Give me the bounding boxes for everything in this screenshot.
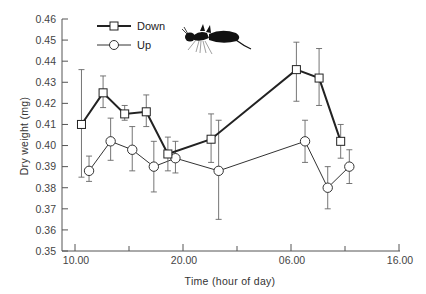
x-tick-label: 16.00 <box>387 254 413 266</box>
y-tick-label: 0.39 <box>36 160 57 172</box>
square-marker-icon <box>99 89 107 97</box>
y-tick-label: 0.46 <box>36 13 57 25</box>
x-tick-label: 10.00 <box>63 254 89 266</box>
y-tick-label: 0.44 <box>36 55 57 67</box>
y-tick-label: 0.36 <box>36 224 57 236</box>
x-axis-title: Time (hour of day) <box>185 275 276 287</box>
legend-item-up: Up <box>97 39 151 51</box>
circle-marker-icon <box>106 137 115 146</box>
chart: 0.350.360.370.380.390.400.410.420.430.44… <box>0 0 426 294</box>
square-marker-icon <box>207 135 215 143</box>
y-tick-label: 0.42 <box>36 97 57 109</box>
circle-marker-icon <box>323 183 332 192</box>
y-tick-label: 0.37 <box>36 203 57 215</box>
y-tick-label: 0.45 <box>36 34 57 46</box>
y-axis-title: Dry weight (mg) <box>18 97 30 176</box>
y-axis: 0.350.360.370.380.390.400.410.420.430.44… <box>36 13 68 257</box>
legend-item-down: Down <box>97 20 165 32</box>
y-tick-label: 0.43 <box>36 76 57 88</box>
legend-label-down: Down <box>137 20 165 32</box>
square-marker-icon <box>292 66 300 74</box>
x-axis: 10.0020.0006.0016.00 <box>62 244 413 266</box>
x-tick-label: 06.00 <box>279 254 305 266</box>
y-tick-label: 0.40 <box>36 139 57 151</box>
circle-marker-icon <box>345 162 354 171</box>
square-marker-icon <box>110 22 118 30</box>
circle-marker-icon <box>128 145 137 154</box>
y-tick-label: 0.38 <box>36 182 57 194</box>
circle-marker-icon <box>149 162 158 171</box>
y-tick-label: 0.35 <box>36 245 57 257</box>
circle-marker-icon <box>84 166 93 175</box>
ant-silhouette-icon <box>182 24 251 54</box>
x-tick-label: 20.00 <box>171 254 197 266</box>
legend: Down Up <box>97 20 165 51</box>
circle-marker-icon <box>214 166 223 175</box>
square-marker-icon <box>164 150 172 158</box>
y-tick-label: 0.41 <box>36 118 57 130</box>
circle-marker-icon <box>300 137 309 146</box>
square-marker-icon <box>77 120 85 128</box>
circle-marker-icon <box>110 41 119 50</box>
square-marker-icon <box>315 74 323 82</box>
legend-label-up: Up <box>137 39 151 51</box>
square-marker-icon <box>337 137 345 145</box>
square-marker-icon <box>121 110 129 118</box>
square-marker-icon <box>142 108 150 116</box>
plot-area <box>77 42 354 219</box>
